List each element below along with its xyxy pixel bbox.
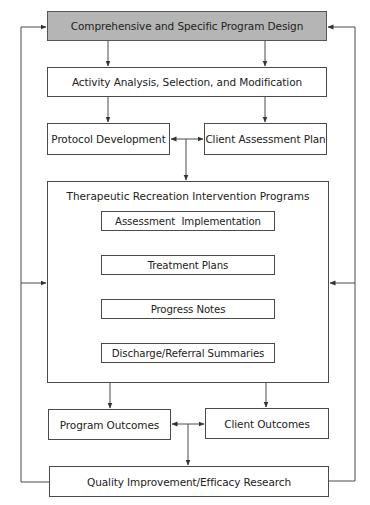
client-outcomes-box: Client Outcomes bbox=[205, 408, 329, 439]
discharge-referral-label: Discharge/Referral Summaries bbox=[112, 348, 265, 359]
client-assessment-plan-box: Client Assessment Plan bbox=[204, 123, 327, 155]
assessment-implementation-box: Assessment Implementation bbox=[101, 211, 275, 231]
progress-notes-label: Progress Notes bbox=[151, 304, 226, 315]
protocol-development-box: Protocol Development bbox=[47, 123, 170, 155]
program-outcomes-label: Program Outcomes bbox=[60, 419, 159, 431]
client-outcomes-label: Client Outcomes bbox=[224, 418, 310, 430]
protocol-development-label: Protocol Development bbox=[51, 133, 165, 145]
discharge-referral-box: Discharge/Referral Summaries bbox=[101, 343, 275, 363]
treatment-plans-label: Treatment Plans bbox=[148, 260, 229, 271]
program-design-box: Comprehensive and Specific Program Desig… bbox=[47, 11, 327, 41]
progress-notes-box: Progress Notes bbox=[101, 299, 275, 319]
assessment-implementation-label: Assessment Implementation bbox=[115, 216, 261, 227]
client-assessment-plan-label: Client Assessment Plan bbox=[205, 133, 325, 145]
activity-analysis-label: Activity Analysis, Selection, and Modifi… bbox=[72, 76, 302, 88]
activity-analysis-box: Activity Analysis, Selection, and Modifi… bbox=[47, 67, 327, 97]
program-outcomes-box: Program Outcomes bbox=[48, 409, 171, 440]
program-design-label: Comprehensive and Specific Program Desig… bbox=[71, 20, 303, 32]
tr-intervention-programs-title: Therapeutic Recreation Intervention Prog… bbox=[48, 190, 328, 202]
quality-improvement-box: Quality Improvement/Efficacy Research bbox=[49, 466, 329, 497]
quality-improvement-label: Quality Improvement/Efficacy Research bbox=[87, 476, 291, 488]
treatment-plans-box: Treatment Plans bbox=[101, 255, 275, 275]
